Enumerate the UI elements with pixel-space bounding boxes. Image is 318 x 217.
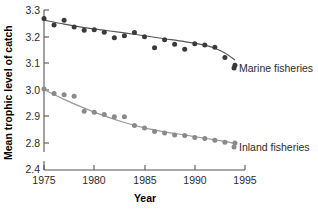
- data-point: [82, 28, 87, 33]
- legend-dot-marine: [232, 66, 237, 71]
- y-axis-ticks: [44, 10, 49, 143]
- y-tick-label-2-8: 2.8: [25, 137, 40, 149]
- x-axis-title: Year: [134, 192, 156, 204]
- data-point: [52, 91, 57, 96]
- data-point: [182, 47, 187, 52]
- data-point: [92, 110, 97, 115]
- y-tick-label-3-3: 3.3: [25, 4, 40, 16]
- data-point: [222, 55, 227, 60]
- data-point: [62, 18, 67, 23]
- data-point: [122, 114, 127, 119]
- data-point: [72, 25, 77, 30]
- data-point: [172, 133, 177, 138]
- data-point: [212, 138, 217, 143]
- data-point: [202, 43, 207, 48]
- data-point: [152, 129, 157, 134]
- x-tick-label-1990: 1990: [183, 174, 207, 186]
- y-tick-label-3-1: 3.1: [25, 57, 40, 69]
- data-point: [162, 37, 167, 42]
- series-points-marine: [42, 16, 238, 68]
- series-points-inland: [42, 87, 238, 146]
- data-point: [152, 45, 157, 50]
- plot-area: [42, 16, 238, 149]
- data-point: [192, 135, 197, 140]
- chart-figure: Mean trophic level of catch 3.3 3.2 3.1 …: [0, 0, 318, 217]
- data-point: [112, 114, 117, 119]
- data-point: [192, 41, 197, 46]
- data-point: [82, 109, 87, 114]
- data-point: [182, 133, 187, 138]
- data-point: [62, 92, 67, 97]
- y-tick-label-2-9: 2.9: [25, 110, 40, 122]
- y-axis-title: Mean trophic level of catch: [2, 25, 14, 160]
- data-point: [102, 30, 107, 35]
- data-point: [92, 27, 97, 32]
- series-label-marine: Marine fisheries: [239, 62, 313, 74]
- data-point: [72, 94, 77, 99]
- x-tick-label-1975: 1975: [32, 174, 56, 186]
- data-point: [202, 136, 207, 141]
- data-point: [42, 87, 47, 92]
- x-tick-label-1995: 1995: [233, 174, 257, 186]
- data-point: [132, 30, 137, 35]
- data-point: [212, 45, 217, 50]
- data-point: [142, 126, 147, 131]
- data-point: [172, 42, 177, 47]
- data-point: [142, 34, 147, 39]
- legend-dot-inland: [232, 145, 237, 150]
- data-point: [162, 130, 167, 135]
- data-point: [102, 112, 107, 117]
- x-tick-label-1980: 1980: [82, 174, 106, 186]
- x-tick-label-1985: 1985: [133, 174, 157, 186]
- series-label-inland: Inland fisheries: [239, 141, 310, 153]
- data-point: [42, 16, 47, 21]
- data-point: [52, 22, 57, 27]
- y-tick-label-3-0: 3.0: [25, 84, 40, 96]
- data-point: [132, 123, 137, 128]
- data-point: [222, 140, 227, 145]
- data-point: [122, 33, 127, 38]
- x-axis-ticks: [44, 165, 245, 170]
- y-tick-label-3-2: 3.2: [25, 31, 40, 43]
- chart-svg: Mean trophic level of catch 3.3 3.2 3.1 …: [0, 0, 318, 217]
- data-point: [112, 35, 117, 40]
